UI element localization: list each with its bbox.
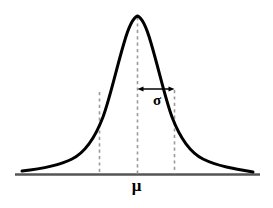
sigma-span-arrow: [138, 86, 175, 91]
sigma-label: σ: [142, 93, 172, 108]
bell-curve-figure: σ μ: [0, 0, 273, 208]
mean-label: μ: [0, 177, 273, 194]
